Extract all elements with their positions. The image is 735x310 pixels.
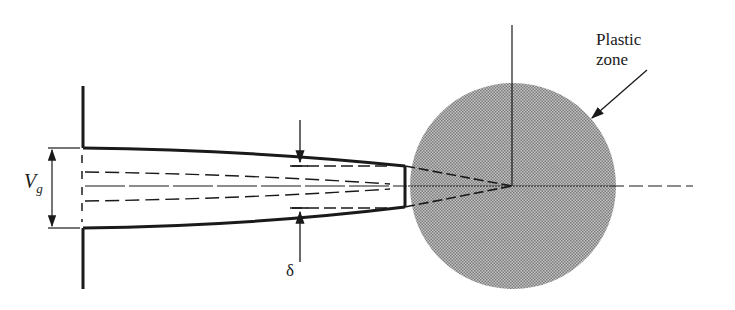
vg-subscript: g <box>36 181 43 196</box>
plastic-zone-label: Plastic zone <box>596 30 641 70</box>
effective-crack-upper <box>85 172 390 184</box>
delta-label: δ <box>286 261 294 281</box>
plastic-zone-label-line1: Plastic <box>596 30 641 50</box>
plastic-zone-label-line2: zone <box>596 50 641 70</box>
crack-face-lower <box>83 207 405 228</box>
effective-crack-lower <box>85 189 390 201</box>
crack-face-upper <box>83 148 405 166</box>
plastic-zone-leader-arrow <box>592 70 647 118</box>
crack-opening-label: Vg <box>24 170 43 197</box>
vg-symbol: V <box>24 170 36 192</box>
